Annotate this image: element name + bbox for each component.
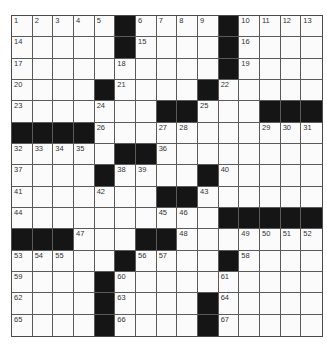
- grid-cell[interactable]: [219, 187, 240, 208]
- grid-cell[interactable]: 11: [260, 16, 281, 37]
- grid-cell[interactable]: [198, 144, 219, 165]
- grid-cell[interactable]: [74, 187, 95, 208]
- grid-cell[interactable]: [115, 229, 136, 250]
- grid-cell[interactable]: 25: [198, 101, 219, 122]
- grid-cell[interactable]: [33, 37, 54, 58]
- grid-cell[interactable]: [260, 251, 281, 272]
- grid-cell[interactable]: [198, 251, 219, 272]
- grid-cell[interactable]: [33, 80, 54, 101]
- grid-cell[interactable]: [198, 37, 219, 58]
- grid-cell[interactable]: 8: [177, 16, 198, 37]
- grid-cell[interactable]: [95, 229, 116, 250]
- grid-cell[interactable]: 7: [157, 16, 178, 37]
- grid-cell[interactable]: [33, 293, 54, 314]
- grid-cell[interactable]: 3: [53, 16, 74, 37]
- grid-cell[interactable]: 29: [260, 123, 281, 144]
- grid-cell[interactable]: [301, 59, 322, 80]
- grid-cell[interactable]: [198, 123, 219, 144]
- grid-cell[interactable]: 5: [95, 16, 116, 37]
- grid-cell[interactable]: 39: [136, 165, 157, 186]
- grid-cell[interactable]: [281, 165, 302, 186]
- grid-cell[interactable]: [115, 187, 136, 208]
- grid-cell[interactable]: [239, 293, 260, 314]
- grid-cell[interactable]: [33, 272, 54, 293]
- grid-cell[interactable]: [301, 272, 322, 293]
- grid-cell[interactable]: 12: [281, 16, 302, 37]
- grid-cell[interactable]: [239, 123, 260, 144]
- grid-cell[interactable]: 40: [219, 165, 240, 186]
- grid-cell[interactable]: 15: [136, 37, 157, 58]
- grid-cell[interactable]: 31: [301, 123, 322, 144]
- grid-cell[interactable]: [33, 208, 54, 229]
- grid-cell[interactable]: [301, 251, 322, 272]
- grid-cell[interactable]: [33, 187, 54, 208]
- grid-cell[interactable]: 62: [12, 293, 33, 314]
- grid-cell[interactable]: 61: [219, 272, 240, 293]
- grid-cell[interactable]: [281, 80, 302, 101]
- grid-cell[interactable]: [157, 37, 178, 58]
- grid-cell[interactable]: 28: [177, 123, 198, 144]
- grid-cell[interactable]: [281, 37, 302, 58]
- grid-cell[interactable]: 32: [12, 144, 33, 165]
- grid-cell[interactable]: [136, 315, 157, 336]
- grid-cell[interactable]: [219, 123, 240, 144]
- grid-cell[interactable]: [177, 144, 198, 165]
- grid-cell[interactable]: [239, 80, 260, 101]
- grid-cell[interactable]: [198, 272, 219, 293]
- grid-cell[interactable]: [260, 315, 281, 336]
- grid-cell[interactable]: 49: [239, 229, 260, 250]
- grid-cell[interactable]: [53, 59, 74, 80]
- grid-cell[interactable]: [281, 315, 302, 336]
- grid-cell[interactable]: 18: [115, 59, 136, 80]
- grid-cell[interactable]: 56: [136, 251, 157, 272]
- grid-cell[interactable]: [136, 187, 157, 208]
- grid-cell[interactable]: [198, 229, 219, 250]
- grid-cell[interactable]: [74, 165, 95, 186]
- grid-cell[interactable]: [74, 37, 95, 58]
- grid-cell[interactable]: [260, 165, 281, 186]
- grid-cell[interactable]: 46: [177, 208, 198, 229]
- grid-cell[interactable]: [74, 251, 95, 272]
- grid-cell[interactable]: [33, 59, 54, 80]
- grid-cell[interactable]: [239, 144, 260, 165]
- grid-cell[interactable]: 65: [12, 315, 33, 336]
- grid-cell[interactable]: 52: [301, 229, 322, 250]
- grid-cell[interactable]: [95, 208, 116, 229]
- grid-cell[interactable]: [260, 272, 281, 293]
- grid-cell[interactable]: [281, 272, 302, 293]
- grid-cell[interactable]: 20: [12, 80, 33, 101]
- grid-cell[interactable]: 42: [95, 187, 116, 208]
- grid-cell[interactable]: [33, 101, 54, 122]
- grid-cell[interactable]: 54: [33, 251, 54, 272]
- grid-cell[interactable]: 2: [33, 16, 54, 37]
- grid-cell[interactable]: [136, 272, 157, 293]
- grid-cell[interactable]: 6: [136, 16, 157, 37]
- grid-cell[interactable]: [95, 37, 116, 58]
- grid-cell[interactable]: 35: [74, 144, 95, 165]
- grid-cell[interactable]: [260, 187, 281, 208]
- grid-cell[interactable]: 63: [115, 293, 136, 314]
- grid-cell[interactable]: [74, 272, 95, 293]
- grid-cell[interactable]: 4: [74, 16, 95, 37]
- grid-cell[interactable]: [74, 80, 95, 101]
- grid-cell[interactable]: 14: [12, 37, 33, 58]
- grid-cell[interactable]: 44: [12, 208, 33, 229]
- grid-cell[interactable]: [301, 144, 322, 165]
- grid-cell[interactable]: [301, 37, 322, 58]
- grid-cell[interactable]: [157, 315, 178, 336]
- grid-cell[interactable]: 53: [12, 251, 33, 272]
- grid-cell[interactable]: [301, 293, 322, 314]
- grid-cell[interactable]: [74, 315, 95, 336]
- grid-cell[interactable]: [157, 293, 178, 314]
- grid-cell[interactable]: [157, 272, 178, 293]
- grid-cell[interactable]: 55: [53, 251, 74, 272]
- grid-cell[interactable]: 16: [239, 37, 260, 58]
- grid-cell[interactable]: [281, 59, 302, 80]
- grid-cell[interactable]: [198, 59, 219, 80]
- grid-cell[interactable]: 1: [12, 16, 33, 37]
- grid-cell[interactable]: [53, 80, 74, 101]
- grid-cell[interactable]: [239, 101, 260, 122]
- grid-cell[interactable]: 33: [33, 144, 54, 165]
- grid-cell[interactable]: 67: [219, 315, 240, 336]
- grid-cell[interactable]: [177, 272, 198, 293]
